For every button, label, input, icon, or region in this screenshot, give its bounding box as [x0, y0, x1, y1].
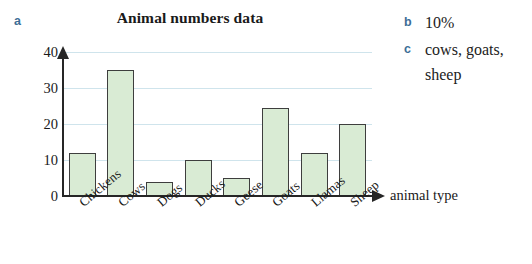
y-tick-label-20: 20	[24, 117, 58, 131]
x-axis-category-labels: ChickensCowsDogsDucksGeeseGoatsLlamasShe…	[63, 198, 383, 264]
y-tick-label-10: 10	[24, 153, 58, 167]
part-marker-c: c	[404, 42, 411, 56]
y-axis-arrow-icon	[57, 46, 69, 59]
x-axis-title: animal type	[390, 187, 458, 204]
answer-c-line-1: cows, goats,	[425, 41, 504, 58]
part-marker-b: b	[404, 15, 412, 29]
answer-c-text: cows, goats, sheep	[425, 37, 504, 87]
y-axis-line	[62, 56, 64, 197]
chart-figure: Animal numbers data 010203040 animal typ…	[0, 0, 400, 264]
y-axis-tick-labels: 010203040	[14, 0, 58, 264]
y-tick-label-0: 0	[24, 189, 58, 203]
part-marker-a: a	[14, 14, 21, 28]
y-tick-label-40: 40	[24, 45, 58, 59]
answer-b-text: 10%	[425, 10, 454, 35]
bar-goats	[262, 108, 289, 196]
gridline-40	[63, 52, 372, 53]
answer-c-line-2: sheep	[425, 66, 461, 83]
y-tick-label-30: 30	[24, 81, 58, 95]
